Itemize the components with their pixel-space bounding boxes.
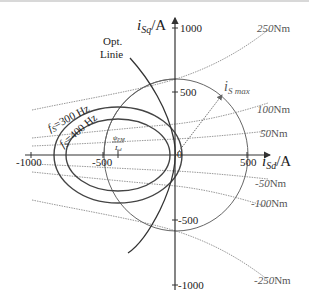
torque-label-minus250: -250Nm: [254, 274, 291, 286]
x-tick-minus1000: -1000: [16, 156, 42, 168]
current-plane-diagram: -1000 -500 0 500 1000 500 -500 -1000 iSq…: [0, 0, 309, 303]
torque-label-100: 100Nm: [257, 103, 290, 115]
x-tick-500: 500: [240, 156, 257, 168]
x-axis-title: iSd/A: [262, 153, 291, 171]
opt-line-label-1: Opt.: [103, 35, 123, 47]
torque-curve-minus50: [32, 164, 268, 179]
torque-label-50: 50Nm: [260, 127, 288, 139]
y-tick-minus500: -500: [178, 214, 199, 226]
opt-line-label-2: Linie: [100, 48, 123, 60]
torque-label-minus50: -50Nm: [255, 177, 287, 189]
torque-curve-250: [32, 30, 268, 110]
x-tick-minus500: -500: [92, 156, 113, 168]
ld-label: Ld: [114, 144, 122, 152]
torque-curve-minus250: [32, 200, 268, 280]
ismax-label: iS max: [224, 79, 250, 96]
origin-label: 0: [177, 149, 182, 160]
y-tick-minus1000: -1000: [178, 279, 204, 291]
y-axis-title: iSq/A: [137, 17, 166, 35]
ismax-arrow: [176, 95, 222, 155]
y-tick-1000: 1000: [180, 22, 203, 34]
torque-label-250: 250Nm: [257, 22, 290, 34]
y-tick-500: 500: [180, 86, 197, 98]
psi-pm-label: ψPM: [113, 134, 125, 142]
torque-label-minus100: -100Nm: [251, 197, 288, 209]
